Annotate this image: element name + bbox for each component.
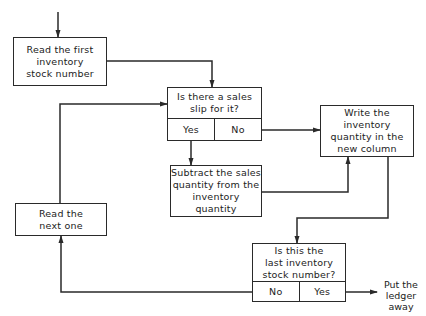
node-subtract: Subtract the sales quantity from the inv… (170, 165, 262, 217)
node-read-first: Read the first inventory stock number (13, 37, 107, 86)
node-read-next-text: Read the next one (39, 208, 83, 232)
option-yes: Yes (168, 119, 214, 140)
decision-last-number-question: Is this the last inventory stock number? (263, 245, 336, 281)
node-read-next: Read the next one (15, 203, 107, 236)
node-put-ledger-away-text: Put the ledger away (384, 279, 418, 312)
node-subtract-text: Subtract the sales quantity from the inv… (171, 167, 261, 215)
edge-no-to-next (61, 236, 252, 292)
option-no: No (214, 119, 261, 140)
decision-sales-slip: Is there a sales slip for it? Yes No (167, 87, 262, 141)
node-write-quantity-text: Write the inventory quantity in the new … (331, 107, 404, 155)
edge-subtract-to-write (262, 157, 348, 192)
node-put-ledger-away: Put the ledger away (380, 279, 422, 312)
node-read-first-text: Read the first inventory stock number (26, 44, 94, 80)
edge-write-to-decision-last (297, 157, 388, 243)
edge-start-to-decision (107, 61, 212, 87)
node-write-quantity: Write the inventory quantity in the new … (320, 105, 414, 157)
decision-sales-slip-question: Is there a sales slip for it? (177, 91, 252, 115)
decision-last-number: Is this the last inventory stock number?… (252, 243, 346, 302)
option-yes: Yes (299, 282, 346, 301)
edge-next-to-decision (60, 104, 167, 203)
option-no: No (253, 282, 299, 301)
